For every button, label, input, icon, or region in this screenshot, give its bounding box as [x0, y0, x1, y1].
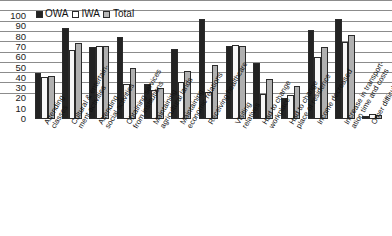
y-tick-label: 100 — [10, 11, 26, 21]
y-tick-label: 70 — [15, 42, 26, 52]
legend-swatch-total-icon — [103, 11, 110, 18]
bar-chart: OWA IWA Total 0102030405060708090100 Att… — [0, 0, 392, 236]
legend-label-iwa: IWA — [82, 9, 101, 19]
chart-legend: OWA IWA Total — [36, 9, 134, 19]
y-tick-label: 50 — [15, 63, 26, 73]
y-tick-label: 40 — [15, 73, 26, 83]
bar-owa — [35, 73, 42, 119]
x-axis: AttendingclassesCultural & entertain-men… — [0, 119, 392, 236]
legend-swatch-iwa-icon — [72, 11, 79, 18]
legend-item-owa: OWA — [36, 9, 69, 19]
y-tick-label: 90 — [15, 22, 26, 32]
y-tick-label: 20 — [15, 94, 26, 104]
y-tick-label: 10 — [15, 104, 26, 114]
legend-label-total: Total — [113, 9, 134, 19]
y-tick-label: 80 — [15, 32, 26, 42]
y-tick-label: 60 — [15, 52, 26, 62]
bar-owa — [335, 19, 342, 119]
legend-label-owa: OWA — [45, 9, 69, 19]
gridline — [0, 0, 392, 1]
legend-swatch-owa-icon — [36, 11, 43, 18]
y-tick-label: 30 — [15, 83, 26, 93]
